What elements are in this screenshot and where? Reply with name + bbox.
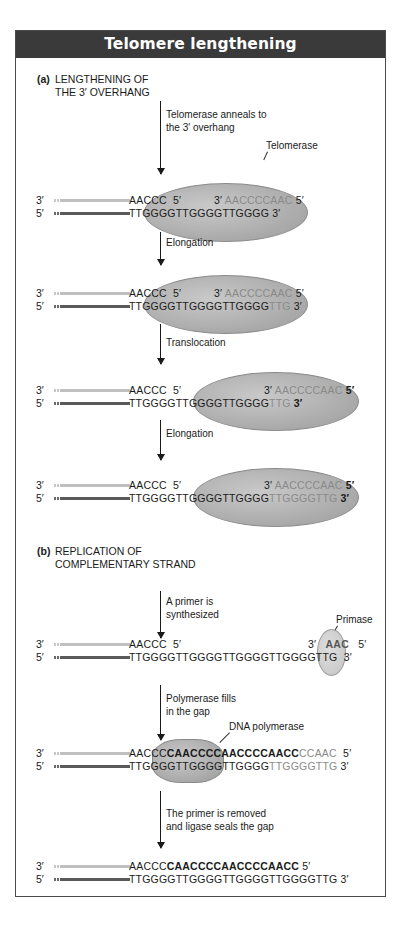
step-label-primer: A primer issynthesized [166, 596, 219, 621]
leader-line [219, 732, 230, 743]
leader-line [263, 152, 268, 161]
section-b-title-line1: REPLICATION OF [55, 545, 142, 558]
arrow-down-icon [160, 791, 161, 848]
step-label-anneal: Telomerase anneals tothe 3′ overhang [166, 109, 267, 134]
step-label-ligase: The primer is removedand ligase seals th… [166, 808, 274, 833]
primase-label: Primase [336, 614, 373, 625]
step-label-elongation: Elongation [166, 428, 213, 441]
arrow-down-icon [160, 591, 161, 638]
section-b-title-line2: COMPLEMENTARY STRAND [55, 558, 196, 571]
telomerase-label: Telomerase [266, 140, 318, 151]
section-a-title-line2: THE 3′ OVERHANG [55, 86, 150, 99]
arrow-down-icon [160, 420, 161, 460]
step-label-polymerase: Polymerase fillsin the gap [166, 693, 236, 718]
section-b-tag: (b) [37, 545, 50, 558]
diagram-frame: Telomere lengthening (a) LENGTHENING OF … [15, 30, 386, 897]
step-label-translocation: Translocation [166, 337, 226, 350]
section-a-tag: (a) [37, 73, 50, 86]
arrow-down-icon [160, 685, 161, 740]
step-label-elongation: Elongation [166, 237, 213, 250]
diagram-title: Telomere lengthening [16, 31, 385, 58]
section-a-title-line1: LENGTHENING OF [55, 73, 148, 86]
arrow-down-icon [160, 101, 161, 174]
arrow-down-icon [160, 232, 161, 265]
arrow-down-icon [160, 324, 161, 364]
dna-polymerase-label: DNA polymerase [229, 721, 304, 732]
